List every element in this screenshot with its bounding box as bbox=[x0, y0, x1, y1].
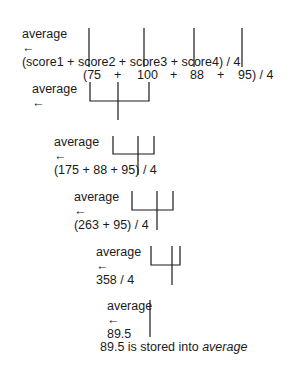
step-4-lhs: average bbox=[74, 190, 119, 204]
conclusion-text: 89.5 is stored into average bbox=[100, 340, 247, 354]
assign-arrow-icon: ← bbox=[107, 313, 120, 327]
step-2-operand-100: 100 bbox=[137, 68, 158, 82]
assign-arrow-icon: ← bbox=[54, 149, 67, 163]
step-1-expression: average ← (score1 + score2 + score3 + sc… bbox=[15, 13, 240, 69]
step-1-rhs: (score1 + score2 + score3 + score4) / 4 bbox=[22, 55, 241, 69]
step-3-lhs: average bbox=[54, 135, 99, 149]
step-2-operand-95: 95) / 4 bbox=[238, 68, 273, 82]
assign-arrow-icon: ← bbox=[96, 259, 109, 273]
step-2-plus-3: + bbox=[217, 68, 224, 82]
step-2-plus-1: + bbox=[114, 68, 121, 82]
step-2-plus-2: + bbox=[170, 68, 177, 82]
assign-arrow-icon: ← bbox=[74, 204, 87, 218]
step-3-expression: average ← (175 + 88 + 95) / 4 bbox=[47, 121, 157, 177]
step-4-rhs: (263 + 95) / 4 bbox=[74, 218, 149, 232]
conclusion-variable: average bbox=[202, 340, 247, 354]
step-5-expression: average ← 358 / 4 bbox=[89, 231, 141, 287]
step-6-lhs: average bbox=[107, 299, 152, 313]
step-6-rhs: 89.5 bbox=[107, 327, 131, 341]
step-2-lhs: average bbox=[32, 82, 77, 96]
conclusion-prefix: 89.5 is stored into bbox=[100, 340, 202, 354]
step-6-expression: average ← 89.5 bbox=[100, 285, 152, 341]
step-5-lhs: average bbox=[96, 245, 141, 259]
step-4-expression: average ← (263 + 95) / 4 bbox=[67, 176, 149, 232]
step-2-operand-88: 88 bbox=[190, 68, 204, 82]
step-3-rhs: (175 + 88 + 95) / 4 bbox=[54, 163, 157, 177]
assign-arrow-icon: ← bbox=[22, 41, 35, 55]
step-2-lhs-group: average ← bbox=[25, 68, 77, 110]
step-2-operand-75: (75 bbox=[83, 68, 101, 82]
step-1-lhs: average bbox=[22, 27, 67, 41]
assign-arrow-icon: ← bbox=[32, 96, 45, 110]
